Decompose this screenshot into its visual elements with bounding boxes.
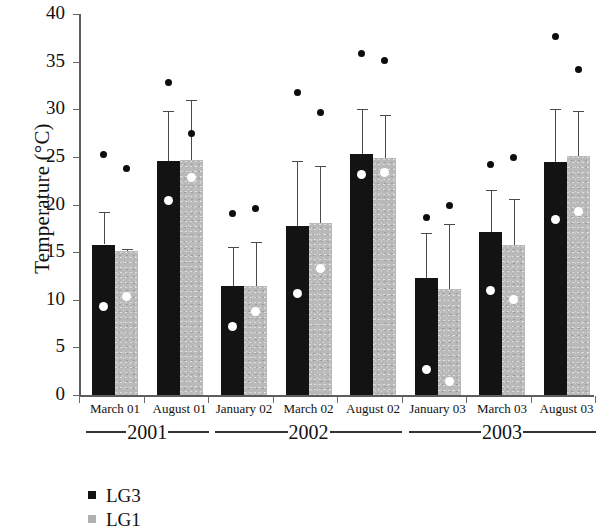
black-point-marker	[358, 50, 365, 57]
bar-lg3-6	[479, 232, 502, 395]
year-rule-right	[330, 431, 403, 433]
y-axis-tick-label: 40	[25, 3, 65, 22]
error-bar	[578, 111, 579, 156]
y-axis-line	[79, 14, 81, 397]
white-point-marker	[316, 264, 325, 273]
y-axis-tick-label: 30	[25, 98, 65, 117]
error-bar	[385, 115, 386, 158]
error-bar-cap	[421, 233, 432, 234]
white-point-marker	[293, 289, 302, 298]
black-point-marker	[229, 210, 236, 217]
error-bar	[362, 109, 363, 154]
error-bar-cap	[251, 242, 262, 243]
y-axis-tick-label: 5	[25, 336, 65, 355]
year-label: 2003	[481, 422, 523, 442]
white-point-marker	[380, 168, 389, 177]
legend-swatch-icon	[88, 491, 96, 499]
error-bar	[491, 190, 492, 232]
year-label: 2001	[126, 422, 168, 442]
white-point-marker	[251, 307, 260, 316]
error-bar	[233, 247, 234, 286]
bar-lg3-5	[415, 278, 438, 395]
error-bar-cap	[163, 111, 174, 112]
y-axis-tick: 10	[73, 300, 79, 301]
y-axis-tick-label: 20	[25, 194, 65, 213]
legend-item-lg1: LG1	[88, 507, 141, 531]
error-bar	[514, 199, 515, 246]
bar-lg1-0	[115, 251, 138, 395]
black-point-marker	[123, 165, 130, 172]
white-point-marker	[551, 215, 560, 224]
year-rule-right	[523, 431, 596, 433]
black-point-marker	[575, 66, 582, 73]
error-bar-cap	[357, 109, 368, 110]
year-rule-left	[215, 431, 288, 433]
error-bar	[555, 109, 556, 161]
black-point-marker	[510, 154, 517, 161]
black-point-marker	[252, 205, 259, 212]
error-bar	[426, 233, 427, 278]
plot-area: 0510152025303540	[79, 14, 594, 396]
black-point-marker	[446, 202, 453, 209]
error-bar-cap	[228, 247, 239, 248]
bar-lg1-3	[309, 223, 332, 395]
error-bar	[256, 242, 257, 287]
y-axis-tick-label: 10	[25, 289, 65, 308]
error-bar-cap	[186, 100, 197, 101]
black-point-marker	[165, 79, 172, 86]
year-rule-right	[168, 431, 208, 433]
error-bar-cap	[292, 161, 303, 162]
x-axis-label-7: August 03	[522, 401, 600, 416]
error-bar-cap	[444, 224, 455, 225]
year-group-2003: 2003	[409, 420, 596, 444]
black-point-marker	[487, 161, 494, 168]
error-bar	[297, 161, 298, 227]
y-axis-tick: 25	[73, 157, 79, 158]
black-point-marker	[100, 151, 107, 158]
error-bar-cap	[99, 212, 110, 213]
error-bar-cap	[550, 109, 561, 110]
bar-lg1-1	[180, 160, 203, 395]
error-bar	[168, 111, 169, 161]
bar-lg3-2	[221, 286, 244, 395]
y-axis-tick-label: 35	[25, 51, 65, 70]
error-bar-cap	[122, 249, 133, 250]
chart-legend: LG3LG1	[88, 483, 141, 531]
y-axis-tick: 30	[73, 109, 79, 110]
year-rule-left	[86, 431, 126, 433]
error-bar	[320, 166, 321, 222]
white-point-marker	[99, 302, 108, 311]
white-point-marker	[486, 286, 495, 295]
error-bar-cap	[380, 115, 391, 116]
bar-lg1-4	[373, 158, 396, 395]
y-axis-tick-label: 25	[25, 146, 65, 165]
year-group-2002: 2002	[215, 420, 402, 444]
y-axis-tick-label: 15	[25, 241, 65, 260]
black-point-marker	[423, 214, 430, 221]
black-point-marker	[188, 130, 195, 137]
error-bar-cap	[315, 166, 326, 167]
y-axis-tick: 5	[73, 347, 79, 348]
error-bar-cap	[509, 199, 520, 200]
y-axis-tick: 20	[73, 205, 79, 206]
black-point-marker	[552, 33, 559, 40]
bar-lg3-7	[544, 162, 567, 395]
legend-label: LG1	[106, 510, 141, 529]
bar-lg3-3	[286, 226, 309, 395]
white-point-marker	[187, 173, 196, 182]
bar-lg1-2	[244, 286, 267, 395]
error-bar	[449, 224, 450, 290]
bar-lg3-0	[92, 245, 115, 395]
white-point-marker	[228, 322, 237, 331]
legend-label: LG3	[106, 486, 141, 505]
white-point-marker	[445, 377, 454, 386]
bar-lg1-6	[502, 245, 525, 395]
white-point-marker	[574, 207, 583, 216]
year-rule-left	[409, 431, 482, 433]
year-group-2001: 2001	[86, 420, 209, 444]
black-point-marker	[381, 57, 388, 64]
black-point-marker	[294, 89, 301, 96]
bar-lg3-4	[350, 154, 373, 395]
error-bar-cap	[486, 190, 497, 191]
